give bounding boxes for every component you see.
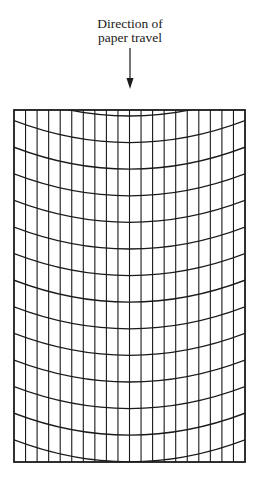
distorted-grid-diagram <box>0 0 258 486</box>
down-arrow-icon <box>127 48 134 89</box>
